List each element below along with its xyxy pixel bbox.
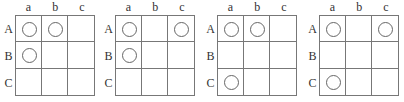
row-label-B: B: [103, 49, 114, 63]
grid-cell-Ac: [68, 16, 94, 42]
grid-cell-Bb: [142, 42, 168, 68]
grid-cell-Cc: [270, 69, 296, 95]
column-label-b: b: [244, 1, 271, 14]
circle-icon: [48, 22, 63, 37]
circle-icon: [22, 48, 37, 63]
grid-cell-Ab: [244, 16, 270, 42]
grid-cell-Cb: [142, 69, 168, 95]
grid-cell-Ca: [16, 69, 42, 95]
row-label-A: A: [205, 22, 216, 36]
grid-cell-Bb: [346, 42, 372, 68]
circle-icon: [326, 22, 341, 37]
grid-cell-Bc: [68, 42, 94, 68]
grid-cell-Cc: [68, 69, 94, 95]
grid: [217, 15, 297, 96]
grid-cell-Ac: [270, 16, 296, 42]
circle-icon: [250, 22, 265, 37]
column-label-c: c: [270, 1, 297, 14]
grid-cell-Ba: [218, 42, 244, 68]
row-label-A: A: [307, 22, 318, 36]
grid-cell-Ba: [116, 42, 142, 68]
grid-cell-Aa: [116, 16, 142, 42]
grid-cell-Ca: [320, 69, 346, 95]
grid-cell-Bc: [168, 42, 194, 68]
row-label-B: B: [307, 49, 318, 63]
column-label-b: b: [42, 1, 69, 14]
row-label-B: B: [205, 49, 216, 63]
column-label-c: c: [372, 1, 399, 14]
grid-cell-Aa: [218, 16, 244, 42]
grid-cell-Cb: [346, 69, 372, 95]
column-label-a: a: [319, 1, 346, 14]
grid-cell-Ca: [218, 69, 244, 95]
grid: [115, 15, 195, 96]
column-label-b: b: [142, 1, 169, 14]
grid-cell-Aa: [320, 16, 346, 42]
grid: [319, 15, 399, 96]
circle-icon: [326, 75, 341, 90]
row-label-B: B: [3, 49, 14, 63]
circle-icon: [122, 22, 137, 37]
circle-icon: [224, 75, 239, 90]
column-label-b: b: [346, 1, 373, 14]
row-label-C: C: [205, 76, 216, 90]
grid-cell-Cc: [168, 69, 194, 95]
grid-cell-Ba: [16, 42, 42, 68]
column-label-c: c: [68, 1, 95, 14]
grid-cell-Bc: [270, 42, 296, 68]
grid-cell-Bb: [42, 42, 68, 68]
grid-cell-Ba: [320, 42, 346, 68]
column-label-a: a: [217, 1, 244, 14]
row-label-C: C: [3, 76, 14, 90]
grid-panel-2: abcABC: [100, 0, 200, 102]
row-label-C: C: [103, 76, 114, 90]
circle-icon: [22, 22, 37, 37]
grid-cell-Ac: [168, 16, 194, 42]
grid-cell-Ab: [346, 16, 372, 42]
grid-cell-Ab: [42, 16, 68, 42]
circle-icon: [122, 48, 137, 63]
grid-cell-Bb: [244, 42, 270, 68]
column-label-c: c: [168, 1, 195, 14]
grid-cell-Cc: [372, 69, 398, 95]
grid-cell-Bc: [372, 42, 398, 68]
row-label-A: A: [3, 22, 14, 36]
grid-panel-1: abcABC: [0, 0, 100, 102]
grid-panel-4: abcABC: [304, 0, 404, 102]
grid-panel-3: abcABC: [202, 0, 302, 102]
column-label-a: a: [115, 1, 142, 14]
circle-icon: [224, 22, 239, 37]
grid-cell-Aa: [16, 16, 42, 42]
row-label-A: A: [103, 22, 114, 36]
grid-cell-Cb: [42, 69, 68, 95]
grid-cell-Ac: [372, 16, 398, 42]
grid-cell-Ab: [142, 16, 168, 42]
grid-cell-Cb: [244, 69, 270, 95]
circle-icon: [174, 22, 189, 37]
row-label-C: C: [307, 76, 318, 90]
grid: [15, 15, 95, 96]
circle-icon: [378, 22, 393, 37]
column-label-a: a: [15, 1, 42, 14]
grid-cell-Ca: [116, 69, 142, 95]
